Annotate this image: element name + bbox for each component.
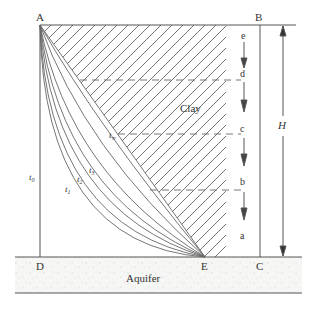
point-label-B: B — [255, 11, 262, 23]
height-dimension — [280, 26, 286, 256]
level-label-a: a — [240, 230, 245, 241]
level-label-b: b — [240, 176, 245, 187]
curve-label-t0: t0 — [29, 172, 35, 183]
level-label-e: e — [241, 30, 246, 41]
consolidation-diagram: A B C D E Clay Aquifer e d c b a H t0 t1… — [0, 0, 316, 310]
isochrones — [40, 25, 205, 257]
frame — [15, 25, 302, 257]
level-label-d: d — [240, 68, 245, 79]
point-label-C: C — [256, 260, 263, 272]
curve-label-t1: t1 — [65, 184, 71, 195]
point-label-D: D — [36, 260, 44, 272]
aquifer-label: Aquifer — [126, 272, 161, 284]
level-label-c: c — [240, 123, 245, 134]
point-label-A: A — [36, 11, 44, 23]
clay-hatching — [0, 25, 316, 265]
point-label-E: E — [201, 260, 208, 272]
clay-label: Clay — [180, 102, 201, 114]
height-label-H: H — [277, 119, 287, 131]
